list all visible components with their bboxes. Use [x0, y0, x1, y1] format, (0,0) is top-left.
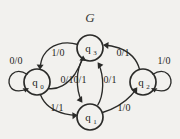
graph-title: G [85, 10, 95, 25]
state-sublabel-q0: 0 [40, 83, 44, 91]
transition-q2-q3: 0/1 [103, 42, 140, 69]
state-node-q1[interactable]: q 1 [77, 104, 103, 130]
transition-q0-q1: 1/1 [41, 95, 78, 119]
edge-label-q1-q3: 0/1 [104, 74, 117, 85]
state-sublabel-q1: 1 [93, 118, 97, 126]
state-node-q2[interactable]: q 2 [130, 69, 156, 95]
edge-label-q1-q2: 1/0 [118, 102, 131, 113]
edge-label-q0-q3: 0/1 [61, 74, 74, 85]
transition-q3-q1: 0/1 [74, 60, 87, 103]
edge-label-q0-q1: 1/1 [51, 102, 64, 113]
edge-label-q3-q0: 1/0 [52, 47, 65, 58]
state-node-q0[interactable]: q 0 [24, 69, 50, 95]
edge-label-q0-self: 0/0 [10, 55, 23, 66]
transition-q1-q2: 1/0 [103, 87, 138, 113]
state-sublabel-q3: 3 [93, 49, 97, 57]
state-diagram: G 0/0 1/0 1/0 0/1 0 [0, 0, 180, 139]
state-sublabel-q2: 2 [146, 83, 150, 91]
state-diagram-canvas: G 0/0 1/0 1/0 0/1 0 [0, 0, 180, 139]
state-label-q0: q [32, 76, 38, 88]
edge-path-q1-q3 [98, 64, 103, 106]
edge-label-q3-q1: 0/1 [74, 74, 87, 85]
transition-q1-q3: 0/1 [98, 62, 117, 105]
state-node-q3[interactable]: q 3 [77, 35, 103, 61]
edge-label-q2-self: 1/0 [158, 55, 171, 66]
state-label-q2: q [138, 76, 144, 88]
state-label-q3: q [85, 42, 91, 54]
transition-q3-q0: 1/0 [37, 43, 78, 70]
edge-label-q2-q3: 0/1 [117, 47, 130, 58]
state-label-q1: q [85, 111, 91, 123]
